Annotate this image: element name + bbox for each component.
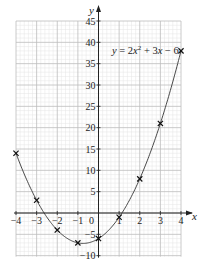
x-tick-label: 2	[137, 215, 142, 226]
y-axis-arrow-icon	[96, 5, 101, 12]
y-tick-label: 40	[86, 37, 96, 48]
y-tick-label: 15	[86, 144, 96, 155]
x-tick-label: −2	[52, 215, 63, 226]
y-tick-label: 5	[91, 186, 96, 197]
x-tick-label: −4	[11, 215, 22, 226]
y-tick-label: −10	[80, 250, 96, 260]
x-tick-label: −3	[31, 215, 42, 226]
y-tick-label: 35	[86, 58, 96, 69]
y-tick-label: 30	[86, 80, 96, 91]
x-axis-label: x	[191, 210, 197, 222]
y-tick-label: 20	[86, 122, 96, 133]
y-tick-label: 45	[86, 16, 96, 27]
x-tick-label: 0	[89, 215, 94, 226]
x-tick-label: 3	[158, 215, 163, 226]
x-tick-label: 4	[179, 215, 184, 226]
quadratic-graph: −4−3−2−101234−10−551015202530354045 y = …	[0, 0, 203, 260]
y-tick-label: 10	[86, 165, 96, 176]
y-tick-label: 25	[86, 101, 96, 112]
y-axis-label: y	[88, 4, 94, 16]
y-tick-label: −5	[85, 229, 96, 240]
equation-label: y = 2x2 + 3x − 6	[111, 44, 179, 56]
x-tick-label: −1	[73, 215, 84, 226]
